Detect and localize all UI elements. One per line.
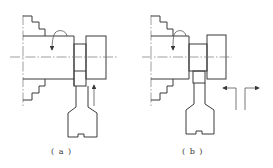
cutting-tool (68, 86, 97, 137)
tool-tip (193, 71, 205, 83)
workpiece-end-block (86, 36, 106, 79)
cutting-tool (186, 83, 214, 134)
lower-chuck-jaw (23, 79, 45, 100)
feed-arrow-left-icon (223, 88, 236, 110)
rotation-arrow-icon (52, 31, 67, 50)
upper-chuck-jaw (151, 16, 173, 36)
rotation-arrow-icon (173, 31, 186, 50)
figure-b (142, 15, 259, 134)
workpiece-neck (74, 44, 86, 86)
lower-chuck-jaw (151, 79, 173, 100)
figure-a (10, 15, 118, 137)
workpiece-neck (189, 44, 207, 71)
feed-arrow-right-icon (245, 88, 259, 110)
lathe-operations-diagram (0, 0, 273, 168)
caption-a: ( a ) (51, 147, 72, 156)
caption-b: ( b ) (182, 147, 203, 156)
upper-chuck-jaw (23, 16, 45, 36)
